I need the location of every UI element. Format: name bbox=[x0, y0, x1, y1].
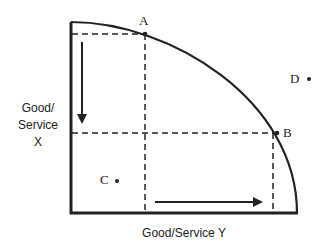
point-d-label: D bbox=[290, 71, 299, 86]
point-a-label: A bbox=[139, 13, 149, 28]
y-axis-label-line-3: X bbox=[34, 135, 42, 149]
ppf-diagram: A B C D Good/ Service X Good/Service Y bbox=[0, 0, 321, 250]
point-b-label: B bbox=[283, 125, 292, 140]
x-axis-label: Good/Service Y bbox=[142, 226, 226, 240]
point-b-dot bbox=[275, 131, 280, 136]
point-a-dot bbox=[143, 32, 148, 37]
point-d-dot bbox=[307, 77, 311, 81]
point-c-dot bbox=[115, 179, 119, 183]
right-arrow-icon bbox=[253, 197, 263, 207]
point-c-label: C bbox=[100, 172, 109, 187]
down-arrow-icon bbox=[77, 114, 87, 124]
y-axis-label-line-2: Service bbox=[18, 118, 58, 132]
y-axis-label-line-1: Good/ bbox=[22, 101, 55, 115]
